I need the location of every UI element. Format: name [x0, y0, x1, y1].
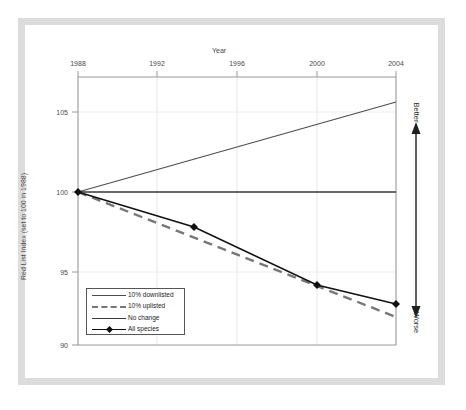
y-tick-label-95: 95 — [44, 269, 68, 276]
legend-label-uplisted: 10% uplisted — [128, 303, 165, 310]
x-tick-label-1992: 1992 — [137, 60, 177, 67]
x-tick-label-1996: 1996 — [217, 60, 257, 67]
legend-item-no-change: No change — [87, 312, 184, 324]
y-axis-ticks — [72, 112, 78, 345]
diamond-marker-icon — [106, 326, 113, 333]
legend-item-all-species: All species — [87, 324, 184, 336]
legend-label-all-species: All species — [128, 326, 159, 333]
x-tick-label-2000: 2000 — [297, 60, 337, 67]
legend-item-uplisted: 10% uplisted — [87, 301, 184, 313]
y-axis-title: Red List Index (set to 100 in 1988) — [20, 152, 27, 302]
legend-swatch-uplisted — [90, 301, 128, 312]
y-tick-label-100: 100 — [44, 189, 68, 196]
y-tick-label-105: 105 — [44, 109, 68, 116]
legend-swatch-downlisted — [90, 289, 128, 300]
annotation-better: Better — [412, 90, 421, 136]
legend-item-downlisted: 10% downlisted — [87, 289, 184, 301]
better-worse-arrow — [412, 122, 421, 318]
legend-swatch-all-species — [90, 324, 128, 335]
x-axis-title: Year — [212, 47, 226, 54]
x-axis-ticks — [78, 71, 396, 77]
legend-swatch-no-change — [90, 312, 128, 323]
y-tick-label-90: 90 — [44, 342, 68, 349]
x-tick-label-1988: 1988 — [58, 60, 98, 67]
legend-label-downlisted: 10% downlisted — [128, 292, 174, 299]
x-tick-label-2004: 2004 — [376, 60, 416, 67]
chart-legend: 10% downlisted 10% uplisted No change Al… — [86, 288, 185, 335]
legend-label-no-change: No change — [128, 315, 159, 322]
annotation-worse: Worse — [412, 300, 421, 346]
